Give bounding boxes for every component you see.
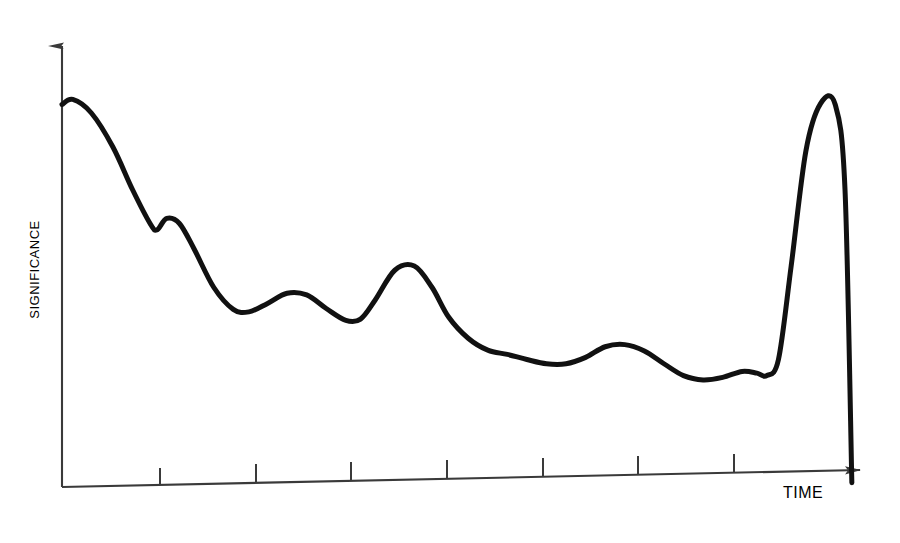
chart-figure: SIGNIFICANCE TIME	[0, 0, 900, 543]
time-axis-ticks	[160, 454, 734, 485]
time-axis-line	[62, 470, 860, 487]
significance-curve	[62, 96, 852, 483]
y-axis-label: SIGNIFICANCE	[27, 200, 42, 340]
x-axis-label: TIME	[783, 484, 823, 502]
chart-canvas	[0, 0, 900, 543]
